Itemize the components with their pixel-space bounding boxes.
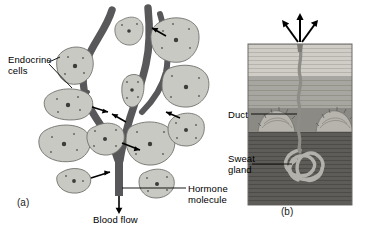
panel-letter-b: (b): [281, 206, 293, 217]
label-hormone-molecule: Hormone molecule: [188, 183, 228, 205]
sweat-release-arrows: [282, 13, 318, 42]
label-endocrine-cells: Endocrine cells: [8, 54, 52, 76]
figure-endocrine-exocrine-glands: Endocrine cells Hormone molecule Blood f…: [0, 0, 376, 238]
skin-cross-section: [248, 44, 353, 205]
panel-letter-a: (a): [17, 197, 29, 208]
blood-flow-arrow: [116, 196, 123, 214]
duct-pore: [297, 44, 303, 52]
label-blood-flow: Blood flow: [93, 214, 138, 225]
label-sweat-gland: Sweat gland: [228, 153, 255, 175]
endocrine-cell-group: [39, 17, 209, 198]
label-duct: Duct: [228, 109, 248, 120]
